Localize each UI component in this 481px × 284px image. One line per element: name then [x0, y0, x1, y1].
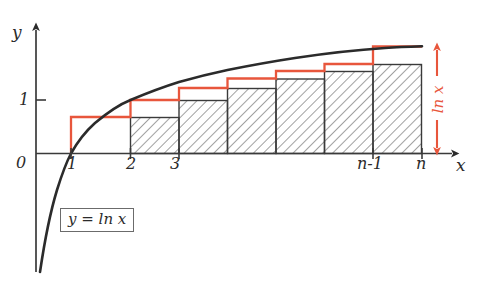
origin-label: 0: [16, 155, 26, 171]
x-tick-label-3: 3: [170, 156, 180, 172]
y-axis-label: y: [12, 24, 22, 41]
x-tick-label-2: 2: [126, 156, 136, 172]
hatched-bar-6: [373, 65, 422, 154]
x-tick-label-1: 1: [67, 156, 77, 172]
x-axis-label: x: [456, 157, 466, 174]
ln-x-riemann-sum-figure: [0, 0, 481, 284]
x-tick-label-n: n: [416, 156, 426, 172]
hatched-bar-5: [325, 72, 374, 154]
hatched-bar-4: [276, 79, 325, 154]
hatched-bar-3: [228, 89, 277, 154]
hatched-bar-1: [131, 118, 180, 154]
x-tick-label-n-minus-1: n-1: [357, 156, 383, 172]
hatched-bar-2: [179, 101, 228, 154]
y-tick-label-1: 1: [19, 92, 29, 108]
curve-equation-label: y = ln x: [60, 208, 134, 232]
ln-x-height-label: ln x: [431, 78, 446, 122]
